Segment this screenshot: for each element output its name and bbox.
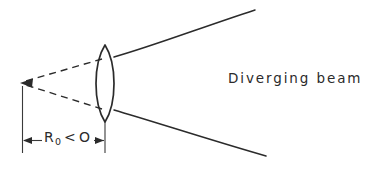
dimension-label: R0<O: [44, 130, 91, 144]
beam-caption: Diverging beam: [228, 70, 362, 86]
lower-virtual-ray-dashed: [26, 85, 102, 109]
dimension-symbol: R: [44, 129, 55, 145]
dimension-left-arrowhead-icon: [23, 137, 32, 144]
upper-diverging-ray: [114, 10, 255, 57]
biconvex-lens: [96, 45, 114, 122]
dimension-relation: <: [64, 129, 77, 145]
dimension-right-arrowhead-icon: [95, 137, 104, 144]
upper-virtual-ray-dashed: [26, 59, 102, 81]
dimension-subscript: 0: [55, 136, 61, 147]
lower-diverging-ray: [114, 110, 266, 156]
dimension-value: O: [79, 129, 91, 145]
optics-figure: R0<O Diverging beam: [0, 0, 390, 170]
